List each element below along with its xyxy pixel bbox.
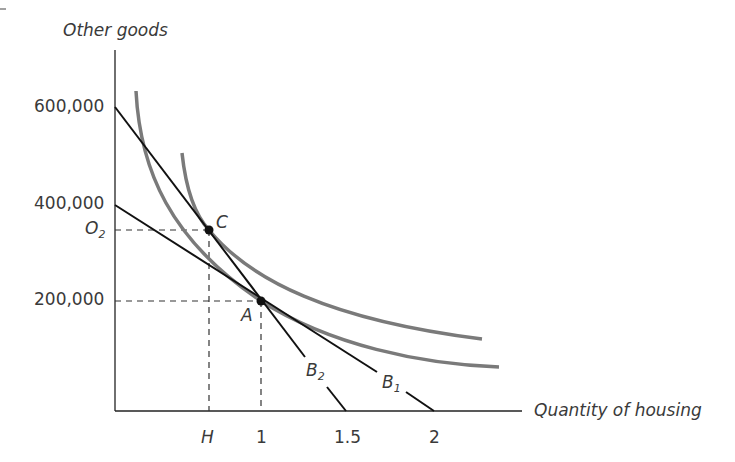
y-axis-label: Other goods: [63, 20, 168, 40]
point-c-marker: [205, 226, 214, 235]
y-tick-o2: O2: [85, 218, 105, 241]
point-c-label: C: [216, 212, 228, 232]
y-tick-600000: 600,000: [34, 96, 104, 116]
x-tick-1: 1: [256, 427, 267, 447]
b1-letter: B: [382, 372, 394, 392]
x-tick-h: H: [201, 427, 214, 447]
budget-line-b1-tail: [406, 392, 434, 411]
o2-label: O: [85, 218, 98, 238]
x-axis-label: Quantity of housing: [534, 400, 702, 420]
x-tick-1-5: 1.5: [334, 427, 361, 447]
b1-subscript: 1: [394, 382, 401, 395]
indifference-curve-upper: [182, 153, 482, 339]
o2-subscript: 2: [98, 228, 105, 241]
b2-subscript: 2: [318, 370, 325, 383]
indifference-curve-lower: [136, 91, 499, 367]
point-a-label: A: [241, 305, 253, 325]
b2-letter: B: [306, 360, 318, 380]
budget-line-b1: [115, 205, 377, 372]
chart-canvas: [0, 0, 735, 462]
b1-label: B1: [382, 372, 401, 395]
point-a-marker: [257, 297, 266, 306]
y-tick-200000: 200,000: [34, 289, 104, 309]
budget-line-b2-tail: [327, 387, 346, 411]
x-tick-2: 2: [429, 427, 440, 447]
y-tick-400000: 400,000: [34, 193, 104, 213]
b2-label: B2: [306, 360, 325, 383]
